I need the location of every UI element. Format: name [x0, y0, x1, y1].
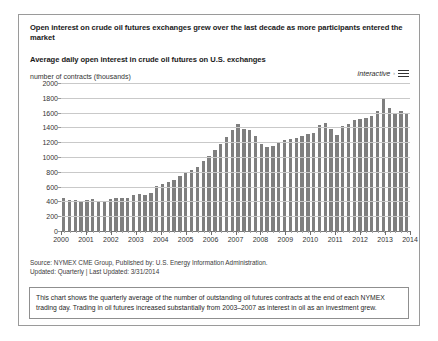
x-axis-tick-label: 2009: [278, 236, 294, 243]
gridline: [61, 216, 410, 217]
bar[interactable]: [289, 139, 292, 231]
gridline: [61, 201, 410, 202]
x-axis-minor-tick: [70, 231, 71, 233]
x-axis-minor-tick: [180, 231, 181, 233]
x-axis-tick: [86, 231, 87, 235]
y-axis-tick: [57, 201, 61, 202]
x-axis-minor-tick: [349, 231, 350, 233]
bar[interactable]: [155, 186, 158, 231]
y-axis-tick: [57, 83, 61, 84]
x-axis-minor-tick: [262, 231, 263, 233]
x-axis-minor-tick: [169, 231, 170, 233]
x-axis-tick: [385, 231, 386, 235]
bar[interactable]: [213, 150, 216, 231]
bar[interactable]: [347, 124, 350, 231]
x-axis-tick-label: 2005: [178, 236, 194, 243]
x-axis-tick-label: 2003: [128, 236, 144, 243]
bar[interactable]: [91, 199, 94, 231]
x-axis-minor-tick: [192, 231, 193, 233]
x-axis-tick-label: 2006: [203, 236, 219, 243]
source-line-2: Updated: Quarterly | Last Updated: 3/31/…: [30, 267, 268, 276]
x-axis-minor-tick: [244, 231, 245, 233]
x-axis-minor-tick: [145, 231, 146, 233]
y-axis-tick: [57, 187, 61, 188]
x-axis-minor-tick: [407, 231, 408, 233]
x-axis-minor-tick: [204, 231, 205, 233]
hamburger-menu-icon[interactable]: [398, 70, 409, 78]
bar[interactable]: [172, 180, 175, 231]
x-axis-labels: 2000200120022003200420052006200720082009…: [61, 231, 410, 253]
bar[interactable]: [370, 116, 373, 231]
y-axis-labels: 0200400600800100012001400160018002000: [30, 83, 58, 231]
x-axis-minor-tick: [134, 231, 135, 233]
bar[interactable]: [318, 125, 321, 231]
bar[interactable]: [382, 98, 385, 231]
x-axis-tick-label: 2011: [328, 236, 343, 243]
bar[interactable]: [324, 123, 327, 231]
bar[interactable]: [161, 184, 164, 231]
x-axis-minor-tick: [87, 231, 88, 233]
x-axis-tick: [285, 231, 286, 235]
bar[interactable]: [265, 147, 268, 231]
y-axis-tick: [57, 127, 61, 128]
gridline: [61, 127, 410, 128]
x-axis-tick: [61, 231, 62, 235]
gridline: [61, 172, 410, 173]
y-axis-tick-label: 1800: [42, 94, 58, 101]
x-axis-minor-tick: [395, 231, 396, 233]
x-axis-minor-tick: [140, 231, 141, 233]
bar[interactable]: [353, 120, 356, 231]
x-axis-minor-tick: [256, 231, 257, 233]
bar[interactable]: [120, 198, 123, 231]
x-axis-minor-tick: [401, 231, 402, 233]
bar[interactable]: [167, 182, 170, 231]
gridline: [61, 142, 410, 143]
bar[interactable]: [358, 119, 361, 231]
bar[interactable]: [62, 198, 65, 231]
y-axis-tick-label: 1200: [42, 139, 58, 146]
x-axis-minor-tick: [157, 231, 158, 233]
x-axis-tick: [360, 231, 361, 235]
bar[interactable]: [271, 146, 274, 231]
x-axis-tick: [161, 231, 162, 235]
chart-note: This chart shows the quarterly average o…: [29, 287, 409, 319]
x-axis-minor-tick: [326, 231, 327, 233]
x-axis-tick: [111, 231, 112, 235]
chart-widget-inner: Open interest on crude oil futures excha…: [19, 15, 419, 325]
bar[interactable]: [236, 124, 239, 231]
x-axis-tick: [136, 231, 137, 235]
x-axis-tick-label: 2010: [302, 236, 318, 243]
x-axis-minor-tick: [267, 231, 268, 233]
bar[interactable]: [283, 140, 286, 231]
bar[interactable]: [178, 176, 181, 231]
bar[interactable]: [149, 193, 152, 231]
source-line-1: Source: NYMEX CME Group, Published by: U…: [30, 258, 268, 267]
gridline: [61, 187, 410, 188]
x-axis-minor-tick: [215, 231, 216, 233]
bar[interactable]: [138, 194, 141, 231]
bar[interactable]: [207, 156, 210, 231]
x-axis-minor-tick: [378, 231, 379, 233]
chart-plot-area: 0200400600800100012001400160018002000 20…: [30, 83, 410, 253]
bar[interactable]: [143, 195, 146, 231]
x-axis-tick-label: 2000: [53, 236, 69, 243]
bar[interactable]: [364, 118, 367, 231]
x-axis-minor-tick: [238, 231, 239, 233]
bar[interactable]: [126, 198, 129, 231]
x-axis-tick: [310, 231, 311, 235]
interactive-label[interactable]: interactive: [358, 69, 391, 78]
gridline: [61, 98, 410, 99]
x-axis-minor-tick: [308, 231, 309, 233]
y-axis-tick: [57, 157, 61, 158]
x-axis-minor-tick: [198, 231, 199, 233]
y-axis-tick: [57, 113, 61, 114]
x-axis-tick-label: 2002: [103, 236, 119, 243]
x-axis-tick-label: 2007: [228, 236, 244, 243]
x-axis-tick-label: 2012: [352, 236, 368, 243]
bar[interactable]: [109, 199, 112, 231]
bar[interactable]: [114, 198, 117, 231]
x-axis-minor-tick: [151, 231, 152, 233]
bar[interactable]: [196, 167, 199, 231]
x-axis-minor-tick: [302, 231, 303, 233]
x-axis-tick: [335, 231, 336, 235]
